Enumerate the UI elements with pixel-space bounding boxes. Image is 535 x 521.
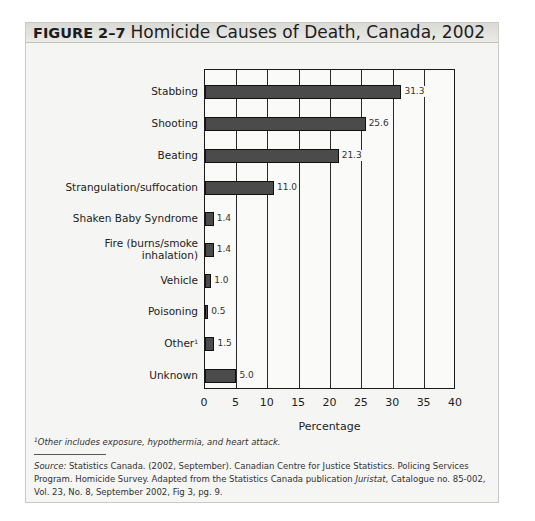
x-tick-label: 25 (351, 396, 371, 409)
category-label: Stabbing (28, 85, 198, 97)
category-label: Beating (28, 149, 198, 161)
bar-value-label: 1.4 (216, 244, 232, 255)
bar (205, 337, 214, 351)
x-tick-label: 30 (382, 396, 402, 409)
source-publication: Juristat (355, 474, 385, 484)
bar-value-label: 1.0 (213, 275, 229, 286)
figure-panel: FIGURE 2–7Homicide Causes of Death, Cana… (25, 22, 499, 503)
bar (205, 243, 214, 257)
x-tick-label: 35 (414, 396, 434, 409)
figure-title: FIGURE 2–7Homicide Causes of Death, Cana… (33, 23, 485, 43)
bar-value-label: 0.5 (210, 306, 226, 317)
gridline (393, 70, 394, 388)
bar (205, 149, 339, 163)
bar-value-label: 31.3 (403, 86, 425, 97)
bar (205, 369, 236, 383)
category-label: Strangulation/suffocation (28, 181, 198, 193)
footnote: 1Other includes exposure, hypothermia, a… (34, 437, 281, 447)
x-tick-label: 5 (225, 396, 245, 409)
figure-number: FIGURE 2–7 (33, 25, 126, 41)
bar (205, 274, 211, 288)
category-label: Other1 (28, 337, 198, 349)
category-label: Unknown (28, 369, 198, 381)
footnote-divider (34, 454, 106, 455)
bar (205, 117, 366, 131)
bar-value-label: 11.0 (276, 182, 298, 193)
category-label: Shooting (28, 117, 198, 129)
plot-area: 31.325.621.311.01.41.41.00.51.55.0 (204, 69, 455, 389)
gridline (424, 70, 425, 388)
category-label: Fire (burns/smokeinhalation) (28, 237, 198, 261)
footnote-marker: 1 (34, 436, 38, 443)
x-tick-label: 0 (194, 396, 214, 409)
source-label: Source: (34, 461, 66, 471)
x-tick-label: 40 (445, 396, 465, 409)
x-tick-label: 20 (320, 396, 340, 409)
x-tick-label: 10 (257, 396, 277, 409)
figure-header: FIGURE 2–7Homicide Causes of Death, Cana… (26, 23, 498, 43)
bar-value-label: 21.3 (341, 150, 363, 161)
bar-value-label: 25.6 (368, 118, 390, 129)
bar (205, 305, 208, 319)
bar (205, 181, 274, 195)
footnote-text: Other includes exposure, hypothermia, an… (38, 437, 281, 447)
bar (205, 85, 401, 99)
source-citation: Source: Statistics Canada. (2002, Septem… (34, 460, 496, 499)
category-label: Poisoning (28, 305, 198, 317)
category-label: Vehicle (28, 274, 198, 286)
bar-value-label: 1.5 (216, 338, 232, 349)
category-label: Shaken Baby Syndrome (28, 212, 198, 224)
figure-title-text: Homicide Causes of Death, Canada, 2002 (131, 22, 486, 42)
bar (205, 212, 214, 226)
bar-value-label: 5.0 (238, 370, 254, 381)
bar-value-label: 1.4 (216, 213, 232, 224)
x-axis-label: Percentage (204, 420, 455, 433)
x-tick-label: 15 (288, 396, 308, 409)
